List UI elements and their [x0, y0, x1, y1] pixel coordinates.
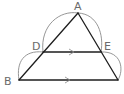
segment-ac	[78, 13, 118, 80]
geometry-diagram: A D E B	[0, 0, 124, 94]
label-b: B	[4, 75, 12, 88]
label-d: D	[32, 40, 40, 53]
label-a: A	[74, 0, 82, 13]
label-e: E	[104, 40, 111, 53]
segment-ab	[19, 13, 78, 80]
